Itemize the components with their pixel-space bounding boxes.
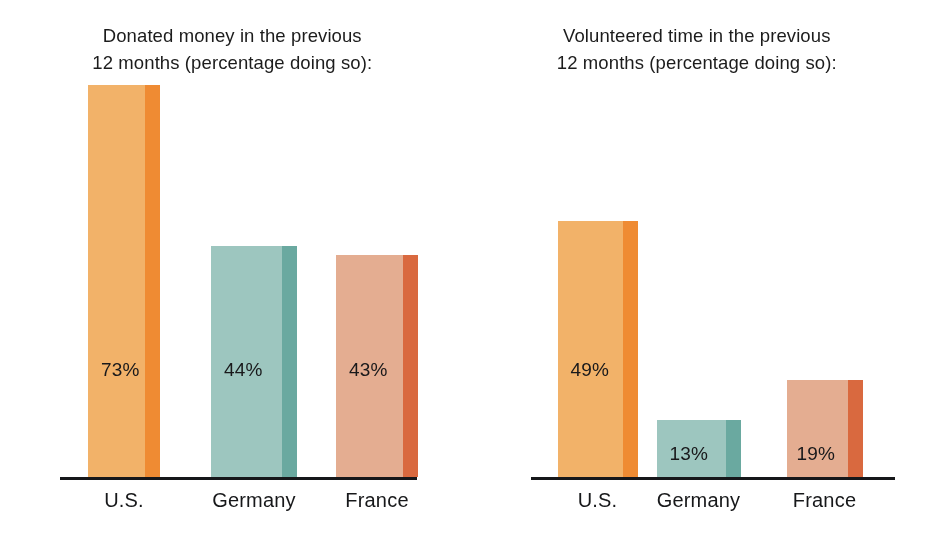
x-axis-line — [60, 477, 417, 480]
bar-value-label: 13% — [670, 443, 709, 465]
bar-us[interactable] — [88, 85, 160, 477]
bar-side-shade — [623, 221, 638, 477]
bar-side-shade — [848, 380, 863, 477]
bar-value-label: 44% — [224, 359, 263, 381]
bar-group-us[interactable]: 49% — [558, 221, 638, 477]
bar-face — [558, 221, 623, 477]
category-label-germany: Germany — [646, 489, 752, 512]
bar-chart-figure: Donated money in the previous 12 months … — [0, 0, 929, 542]
bar-us[interactable] — [558, 221, 638, 477]
chart-panel-volunteered-time: Volunteered time in the previous 12 mont… — [465, 0, 929, 542]
plot-area: 73% 44% — [0, 0, 465, 480]
bar-side-shade — [726, 420, 741, 477]
plot-area: 49% 13% — [465, 0, 929, 480]
bar-group-germany[interactable]: 44% — [211, 246, 297, 477]
category-label-us: U.S. — [558, 489, 638, 512]
chart-panel-donated-money: Donated money in the previous 12 months … — [0, 0, 465, 542]
bar-value-label: 49% — [571, 359, 610, 381]
bar-face — [88, 85, 145, 477]
category-label-us: U.S. — [88, 489, 160, 512]
bar-group-france[interactable]: 19% — [787, 380, 863, 477]
bar-value-label: 19% — [797, 443, 836, 465]
category-label-france: France — [330, 489, 424, 512]
bar-side-shade — [145, 85, 160, 477]
bar-side-shade — [282, 246, 297, 477]
bar-group-germany[interactable]: 13% — [657, 420, 741, 477]
texture-overlay — [558, 221, 623, 477]
category-label-france: France — [778, 489, 872, 512]
bar-series: 73% 44% — [0, 0, 465, 477]
bar-value-label: 43% — [349, 359, 388, 381]
texture-overlay — [88, 85, 145, 477]
bar-value-label: 73% — [101, 359, 140, 381]
category-label-germany: Germany — [201, 489, 307, 512]
bar-group-us[interactable]: 73% — [88, 85, 160, 477]
x-axis-line — [531, 477, 896, 480]
bar-series: 49% 13% — [465, 0, 929, 477]
bar-group-france[interactable]: 43% — [336, 255, 418, 477]
bar-side-shade — [403, 255, 418, 477]
